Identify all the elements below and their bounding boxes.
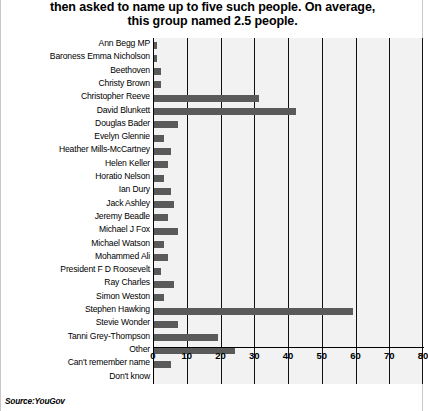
x-tick-label: 20 xyxy=(215,350,226,361)
bar xyxy=(154,161,168,168)
category-label: Helen Keller xyxy=(105,159,150,168)
bar xyxy=(154,148,171,155)
category-label: Mohammed Ali xyxy=(95,252,150,261)
gridline-30 xyxy=(254,38,255,384)
x-tick-label: 70 xyxy=(384,350,395,361)
bar xyxy=(154,108,296,115)
category-label: Heather Mills-McCartney xyxy=(59,145,150,154)
category-label: Stephen Hawking xyxy=(85,305,150,314)
bar xyxy=(154,321,178,328)
gridline-10 xyxy=(187,38,188,384)
category-axis-labels: Ann Begg MPBaroness Emma NicholsonBeetho… xyxy=(1,36,153,384)
bar xyxy=(154,42,157,49)
category-label: Horatio Nelson xyxy=(95,172,150,181)
bar xyxy=(154,281,174,288)
gridline-70 xyxy=(389,38,390,384)
bar xyxy=(154,308,353,315)
bar xyxy=(154,135,164,142)
bar xyxy=(154,254,168,261)
bar xyxy=(154,68,161,75)
chart-area: Ann Begg MPBaroness Emma NicholsonBeetho… xyxy=(1,36,424,388)
x-tick-label: 30 xyxy=(249,350,260,361)
gridline-20 xyxy=(221,38,222,384)
chart-title-line-2: this group named 2.5 people. xyxy=(1,14,424,28)
x-tick-label: 60 xyxy=(350,350,361,361)
chart-title-line-1: then asked to name up to five such peopl… xyxy=(1,0,424,14)
bar xyxy=(154,334,218,341)
bar xyxy=(154,228,178,235)
x-tick-label: 40 xyxy=(283,350,294,361)
bar xyxy=(154,214,168,221)
category-label: Baroness Emma Nicholson xyxy=(50,52,150,61)
category-label: Don't know xyxy=(109,372,150,381)
category-label: Stevie Wonder xyxy=(96,318,150,327)
gridline-40 xyxy=(288,38,289,384)
chart-title: then asked to name up to five such peopl… xyxy=(1,0,424,28)
x-tick-label: 50 xyxy=(316,350,327,361)
category-label: Beethoven xyxy=(110,66,150,75)
category-label: Simon Weston xyxy=(96,292,150,301)
source-note: Source:YouGov xyxy=(5,396,65,406)
bar xyxy=(154,241,164,248)
category-label: Tanni Grey-Thompson xyxy=(68,332,150,341)
category-label: Ann Begg MP xyxy=(99,39,150,48)
category-label: Michael J Fox xyxy=(99,225,150,234)
bar xyxy=(154,95,259,102)
gridline-80 xyxy=(422,38,423,384)
category-label: Ray Charles xyxy=(104,278,150,287)
bar xyxy=(154,268,161,275)
bar xyxy=(154,188,171,195)
category-label: Michael Watson xyxy=(91,239,150,248)
gridline-60 xyxy=(356,38,357,384)
x-tick-label: 10 xyxy=(181,350,192,361)
bar xyxy=(154,121,178,128)
category-label: David Blunkett xyxy=(97,106,150,115)
category-label: Evelyn Glennie xyxy=(94,132,150,141)
plot-area xyxy=(153,38,423,384)
category-label: Jack Ashley xyxy=(106,199,150,208)
bar xyxy=(154,175,164,182)
category-label: Can't remember name xyxy=(68,358,150,367)
gridline-50 xyxy=(322,38,323,384)
gridline-0 xyxy=(153,38,154,384)
category-label: Douglas Bader xyxy=(95,119,150,128)
bar xyxy=(154,55,157,62)
category-label: Ian Dury xyxy=(119,185,150,194)
bar xyxy=(154,294,164,301)
x-tick-label: 0 xyxy=(150,350,155,361)
x-axis-ticks: 01020304050607080 xyxy=(153,348,425,366)
bar xyxy=(154,201,174,208)
x-tick-label: 80 xyxy=(418,350,428,361)
category-label: Other xyxy=(129,345,150,354)
category-label: Christy Brown xyxy=(98,79,150,88)
bar xyxy=(154,81,161,88)
category-label: President F D Roosevelt xyxy=(60,265,150,274)
category-label: Jeremy Beadle xyxy=(95,212,150,221)
category-label: Christopher Reeve xyxy=(81,92,150,101)
